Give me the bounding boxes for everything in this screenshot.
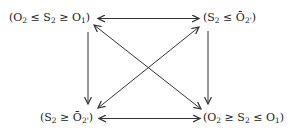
state-transition-diagram: (O2 ≤ S2 ≥ O1) (S2 ≤ Ō2') (S2 ≥ Ō2') (O2… — [0, 0, 290, 134]
edges-layer — [0, 0, 290, 134]
edge-diagonal-tl-br-arrow — [94, 25, 201, 109]
